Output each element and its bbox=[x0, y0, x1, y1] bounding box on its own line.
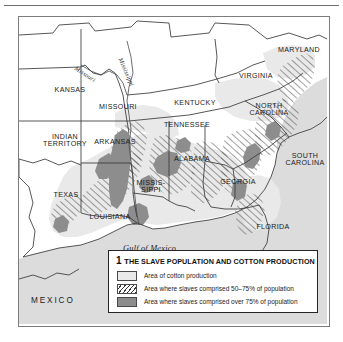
top-divider-rule bbox=[4, 5, 339, 6]
cotton-swatch bbox=[117, 271, 137, 281]
hatch-swatch bbox=[117, 284, 137, 294]
legend-title: 1 THE SLAVE POPULATION AND COTTON PRODUC… bbox=[116, 255, 315, 266]
legend-title-rest: HE SLAVE POPULATION AND COTTON PRODUCTIO… bbox=[129, 257, 315, 266]
map-legend: 1 THE SLAVE POPULATION AND COTTON PRODUC… bbox=[108, 250, 318, 313]
legend-label-50-75: Area where slaves comprised 50–75% of po… bbox=[144, 285, 294, 292]
map-figure: KANSAS MISSOURI INDIAN TERRITORY ARKANSA… bbox=[0, 0, 343, 342]
legend-label-over-75: Area where slaves comprised over 75% of … bbox=[144, 298, 298, 305]
legend-number: 1 bbox=[116, 255, 122, 266]
dark-swatch bbox=[117, 297, 137, 307]
legend-label-cotton: Area of cotton production bbox=[144, 272, 217, 279]
